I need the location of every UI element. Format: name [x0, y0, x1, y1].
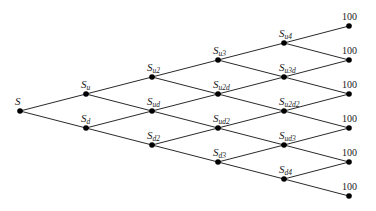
- tree-nodes: [17, 23, 352, 199]
- tree-edge: [152, 145, 218, 162]
- terminal-node: [346, 23, 352, 29]
- node-label-subscript: d2: [153, 134, 161, 143]
- tree-edge: [218, 145, 284, 162]
- node-label-subscript: d: [87, 117, 91, 126]
- tree-edge: [284, 145, 349, 162]
- node-label: Sd3: [213, 146, 226, 160]
- tree-node: [215, 125, 221, 131]
- tree-edge: [284, 26, 349, 43]
- node-label-subscript: ud: [153, 100, 161, 109]
- terminal-value-label: 100: [342, 11, 357, 22]
- tree-node: [215, 57, 221, 63]
- node-label: Su2d: [213, 78, 230, 92]
- node-label-subscript: u4: [285, 32, 293, 41]
- tree-edge: [284, 179, 349, 196]
- terminal-node: [346, 125, 352, 131]
- tree-edge: [86, 128, 152, 145]
- tree-edge: [20, 111, 86, 128]
- node-label-subscript: ud2: [219, 117, 231, 126]
- tree-edge: [284, 43, 349, 60]
- tree-node: [281, 74, 287, 80]
- node-label: Sud: [147, 95, 160, 109]
- node-label: S: [15, 95, 21, 107]
- node-label-subscript: u3d: [285, 66, 297, 75]
- node-label: Su2d2: [279, 95, 300, 109]
- tree-node: [215, 159, 221, 165]
- tree-node: [17, 108, 23, 114]
- tree-edge: [152, 60, 218, 77]
- tree-edge: [284, 77, 349, 94]
- terminal-value-label: 100: [342, 147, 357, 158]
- tree-edge: [152, 94, 218, 111]
- node-label-subscript: u: [87, 83, 91, 92]
- tree-edge: [284, 162, 349, 179]
- node-label-subscript: u3: [219, 49, 227, 58]
- binomial-tree-diagram: SSuSdSu2SudSd2Su3Su2dSud2Sd3Su4Su3dSu2d2…: [0, 0, 376, 211]
- tree-edges: [20, 26, 349, 196]
- node-label: Su4: [279, 27, 292, 41]
- node-label: Sd2: [147, 129, 160, 143]
- terminal-value-label: 100: [342, 181, 357, 192]
- node-label-subscript: u2: [153, 66, 161, 75]
- node-label: Sud3: [279, 129, 296, 143]
- tree-edge: [86, 77, 152, 94]
- node-label-subscript: ud3: [285, 134, 297, 143]
- terminal-value-label: 100: [342, 113, 357, 124]
- node-label: Sud2: [213, 112, 230, 126]
- tree-node: [83, 125, 89, 131]
- tree-edge: [86, 111, 152, 128]
- tree-node: [281, 108, 287, 114]
- node-label: Sd: [81, 112, 91, 126]
- tree-node: [149, 74, 155, 80]
- tree-labels: SSuSdSu2SudSd2Su3Su2dSud2Sd3Su4Su3dSu2d2…: [15, 11, 357, 192]
- tree-edge: [284, 111, 349, 128]
- tree-node: [149, 108, 155, 114]
- terminal-value-label: 100: [342, 45, 357, 56]
- tree-edge: [218, 94, 284, 111]
- tree-edge: [86, 94, 152, 111]
- terminal-node: [346, 57, 352, 63]
- terminal-node: [346, 91, 352, 97]
- tree-edge: [152, 77, 218, 94]
- tree-node: [281, 176, 287, 182]
- node-label-subscript: u2d2: [285, 100, 300, 109]
- tree-node: [281, 40, 287, 46]
- node-label-subscript: u2d: [219, 83, 231, 92]
- tree-node: [83, 91, 89, 97]
- tree-edge: [218, 128, 284, 145]
- tree-node: [149, 142, 155, 148]
- tree-edge: [218, 60, 284, 77]
- tree-edge: [218, 43, 284, 60]
- node-label: Su3: [213, 44, 226, 58]
- terminal-node: [346, 159, 352, 165]
- node-label-subscript: d3: [219, 151, 227, 160]
- tree-edge: [152, 128, 218, 145]
- node-label: Su2: [147, 61, 160, 75]
- node-label-subscript: d4: [285, 168, 293, 177]
- node-label: Su3d: [279, 61, 296, 75]
- tree-edge: [20, 94, 86, 111]
- tree-node: [281, 142, 287, 148]
- tree-node: [215, 91, 221, 97]
- node-label: Sd4: [279, 163, 292, 177]
- tree-edge: [218, 162, 284, 179]
- node-label: Su: [81, 78, 91, 92]
- terminal-value-label: 100: [342, 79, 357, 90]
- tree-edge: [152, 111, 218, 128]
- terminal-node: [346, 193, 352, 199]
